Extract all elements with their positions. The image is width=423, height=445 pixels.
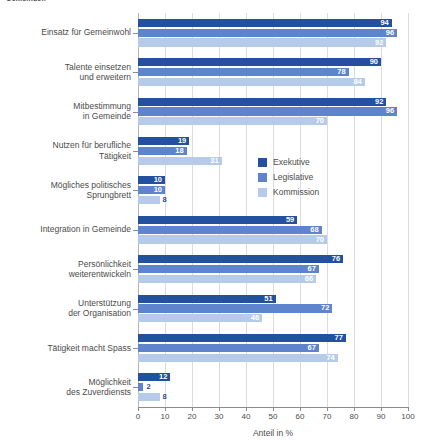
x-tick-label: 30 — [215, 412, 224, 421]
bar-value-label: 78 — [337, 68, 345, 76]
bar-group: 1228 — [138, 373, 408, 401]
x-tick-label: 60 — [296, 412, 305, 421]
x-tick — [219, 407, 220, 411]
bar-row[interactable]: 51 — [138, 295, 408, 303]
bar-row[interactable]: 84 — [138, 78, 408, 86]
bar-row[interactable]: 92 — [138, 38, 408, 46]
bar-legislative[interactable] — [138, 226, 322, 234]
category-label-line: weiterentwickeln — [0, 269, 131, 280]
bar-legislative[interactable] — [138, 304, 332, 312]
bar-row[interactable]: 19 — [138, 137, 408, 145]
category-label: Integration in Gemeinde — [0, 224, 131, 235]
bar-kommission[interactable] — [138, 78, 365, 86]
bar-row[interactable]: 68 — [138, 226, 408, 234]
clipped-header-text: Gemeinden — [6, 0, 46, 2]
legend-swatch-icon — [258, 173, 267, 182]
bar-row[interactable]: 46 — [138, 314, 408, 322]
bar-kommission[interactable] — [138, 314, 262, 322]
bar-legislative[interactable] — [138, 344, 319, 352]
x-tick-label: 90 — [377, 412, 386, 421]
x-tick-label: 50 — [269, 412, 278, 421]
bar-exekutive[interactable] — [138, 19, 392, 27]
bar-exekutive[interactable] — [138, 255, 343, 263]
bar-value-label: 67 — [308, 265, 316, 273]
bar-row[interactable]: 76 — [138, 255, 408, 263]
category-label-line: des Zuverdiensts — [0, 387, 131, 398]
bar-row[interactable]: 18 — [138, 147, 408, 155]
legend-item[interactable]: Exekutive — [258, 155, 319, 169]
bar-legislative[interactable] — [138, 383, 143, 391]
bar-exekutive[interactable] — [138, 295, 276, 303]
bar-row[interactable]: 2 — [138, 383, 408, 391]
bar-row[interactable]: 96 — [138, 29, 408, 37]
bar-legislative[interactable] — [138, 265, 319, 273]
category-label: Nutzen für beruflicheTätigkeit — [0, 140, 131, 161]
bar-row[interactable]: 90 — [138, 58, 408, 66]
bar-row[interactable]: 67 — [138, 344, 408, 352]
category-tick — [133, 348, 138, 349]
bar-row[interactable]: 67 — [138, 265, 408, 273]
bar-kommission[interactable] — [138, 38, 386, 46]
bar-row[interactable]: 74 — [138, 354, 408, 362]
legend-item[interactable]: Kommission — [258, 185, 319, 199]
bar-group: 929670 — [138, 98, 408, 126]
bar-row[interactable]: 8 — [138, 393, 408, 401]
bar-value-label: 70 — [316, 236, 324, 244]
bar-row[interactable]: 66 — [138, 275, 408, 283]
bar-kommission[interactable] — [138, 235, 327, 243]
category-label-line: Mitbestimmung — [0, 101, 131, 112]
bar-exekutive[interactable] — [138, 216, 297, 224]
bar-kommission[interactable] — [138, 157, 222, 165]
bar-row[interactable]: 92 — [138, 98, 408, 106]
category-tick — [133, 190, 138, 191]
category-label: Einsatz für Gemeinwohl — [0, 27, 131, 38]
x-tick-label: 20 — [188, 412, 197, 421]
legend: ExekutiveLegislativeKommission — [258, 155, 319, 200]
x-tick-label: 100 — [401, 412, 414, 421]
bar-legislative[interactable] — [138, 29, 397, 37]
bar-row[interactable]: 70 — [138, 117, 408, 125]
bar-row[interactable]: 77 — [138, 334, 408, 342]
x-tick — [354, 407, 355, 411]
legend-item[interactable]: Legislative — [258, 170, 319, 184]
bar-row[interactable]: 70 — [138, 235, 408, 243]
x-tick — [246, 407, 247, 411]
bar-row[interactable]: 72 — [138, 304, 408, 312]
bar-row[interactable]: 96 — [138, 107, 408, 115]
bar-row[interactable]: 78 — [138, 68, 408, 76]
category-label-line: Sprungbrett — [0, 190, 131, 201]
bar-value-label: 96 — [386, 108, 394, 116]
bar-legislative[interactable] — [138, 68, 349, 76]
category-label: Tätigkeit macht Spass — [0, 343, 131, 354]
bar-group: 949692 — [138, 19, 408, 47]
category-label-line: Unterstützung — [0, 298, 131, 309]
bar-chart: Gemeinden 949692907884929670191831101085… — [0, 0, 423, 445]
bar-kommission[interactable] — [138, 196, 160, 204]
bar-value-label: 77 — [335, 334, 343, 342]
category-tick — [133, 230, 138, 231]
category-tick — [133, 151, 138, 152]
x-tick — [138, 407, 139, 411]
legend-swatch-icon — [258, 188, 267, 197]
bar-row[interactable]: 12 — [138, 373, 408, 381]
bar-kommission[interactable] — [138, 275, 316, 283]
bar-group: 517246 — [138, 295, 408, 323]
category-label: Unterstützungder Organisation — [0, 298, 131, 319]
bar-exekutive[interactable] — [138, 58, 381, 66]
bar-legislative[interactable] — [138, 107, 397, 115]
category-label-line: Möglichkeit — [0, 377, 131, 388]
category-label: Talente einsetzenund erweitern — [0, 62, 131, 83]
bar-kommission[interactable] — [138, 354, 338, 362]
bar-value-label: 94 — [380, 19, 388, 27]
bar-exekutive[interactable] — [138, 334, 346, 342]
category-label-line: Talente einsetzen — [0, 62, 131, 73]
category-label-line: der Organisation — [0, 308, 131, 319]
bar-kommission[interactable] — [138, 117, 327, 125]
bar-kommission[interactable] — [138, 393, 160, 401]
bar-exekutive[interactable] — [138, 98, 386, 106]
category-label-line: in Gemeinde — [0, 111, 131, 122]
bar-row[interactable]: 94 — [138, 19, 408, 27]
category-label-line: Nutzen für berufliche — [0, 140, 131, 151]
bar-row[interactable]: 59 — [138, 216, 408, 224]
legend-label: Exekutive — [273, 157, 310, 167]
